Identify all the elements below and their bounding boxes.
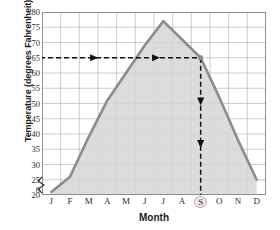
y-axis-tick-label: 50 (6, 99, 40, 109)
x-axis-title: Month (42, 212, 266, 223)
x-axis-tick-label-may: M (116, 196, 136, 206)
highlight-point (198, 55, 203, 60)
x-axis-tick-text: A (179, 196, 186, 206)
x-axis-tick-text: M (85, 196, 93, 206)
x-axis-tick-text: N (235, 196, 242, 206)
x-axis-tick-label-april: A (97, 196, 117, 206)
axis-break-icon (34, 176, 50, 196)
x-axis-tick-text: J (50, 196, 54, 206)
y-axis-tick-label: 65 (6, 53, 40, 63)
x-axis-tick-text: S (194, 196, 207, 208)
x-axis-tick-label-july: J (153, 196, 173, 206)
x-axis-tick-text: O (216, 196, 223, 206)
x-axis-tick-labels: JFMAMJJASOND (42, 196, 266, 212)
y-axis-tick-label: 70 (6, 38, 40, 48)
x-axis-tick-text: F (67, 196, 72, 206)
plot-svg (42, 12, 266, 195)
x-axis-tick-text: J (143, 196, 147, 206)
y-axis-tick-label: 45 (6, 114, 40, 124)
x-axis-tick-label-march: M (79, 196, 99, 206)
x-axis-tick-text: D (253, 196, 260, 206)
plot-area (42, 12, 266, 195)
y-axis-tick-label: 60 (6, 68, 40, 78)
x-axis-tick-label-february: F (60, 196, 80, 206)
y-axis-tick-label: 80 (6, 7, 40, 17)
x-axis-tick-label-january: J (41, 196, 61, 206)
x-axis-tick-text: M (122, 196, 130, 206)
x-axis-tick-label-june: J (135, 196, 155, 206)
x-axis-tick-text: J (162, 196, 166, 206)
temperature-line-chart: Temperature (degrees Fahrenheit) 8075706… (0, 0, 280, 230)
y-axis-tick-label: 55 (6, 83, 40, 93)
x-axis-tick-label-september: S (191, 196, 211, 208)
x-axis-tick-label-october: O (209, 196, 229, 206)
y-axis-tick-label: 35 (6, 144, 40, 154)
x-axis-tick-label-august: A (172, 196, 192, 206)
x-axis-tick-label-december: D (247, 196, 267, 206)
y-axis-tick-label: 75 (6, 22, 40, 32)
y-axis-tick-label: 40 (6, 129, 40, 139)
x-axis-tick-text: A (104, 196, 111, 206)
y-axis-tick-label: 30 (6, 160, 40, 170)
x-axis-tick-label-november: N (228, 196, 248, 206)
